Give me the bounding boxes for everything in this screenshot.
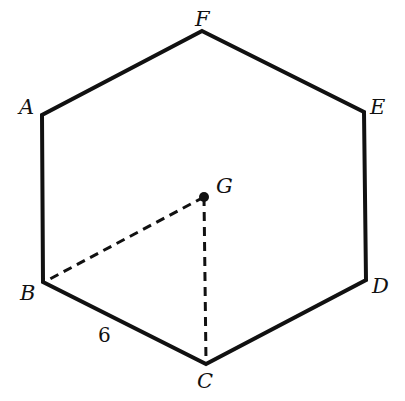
vertex-label-c: C — [197, 371, 213, 392]
center-point-g — [199, 192, 209, 202]
vertex-label-f: F — [195, 9, 210, 30]
vertex-label-a: A — [19, 97, 34, 118]
vertex-label-b: B — [20, 283, 35, 304]
hexagon-figure — [0, 0, 405, 401]
segment-gc — [204, 197, 206, 362]
vertex-label-d: D — [372, 276, 389, 297]
hexagon-diagram: F A E G B D C 6 — [0, 0, 405, 401]
segment-gb — [48, 197, 204, 280]
side-length-label: 6 — [98, 325, 111, 345]
vertex-label-e: E — [370, 97, 385, 118]
vertex-label-g: G — [216, 176, 233, 197]
